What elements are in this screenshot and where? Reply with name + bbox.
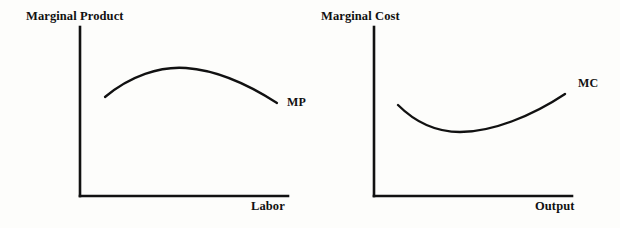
marginal-product-plot bbox=[0, 0, 310, 228]
y-axis-title: Marginal Cost bbox=[321, 10, 400, 23]
mp-curve-label: MP bbox=[287, 96, 306, 108]
y-axis-title: Marginal Product bbox=[26, 10, 124, 23]
marginal-product-panel: Marginal Product Labor MP bbox=[0, 0, 310, 228]
mc-curve bbox=[398, 94, 565, 132]
x-axis-title: Output bbox=[535, 200, 575, 213]
x-axis-title: Labor bbox=[251, 200, 285, 213]
marginal-cost-panel: Marginal Cost Output MC bbox=[310, 0, 620, 228]
marginal-cost-plot bbox=[310, 0, 620, 228]
mp-curve bbox=[105, 68, 277, 103]
mc-curve-label: MC bbox=[578, 77, 598, 89]
economics-figure: Marginal Product Labor MP Marginal Cost … bbox=[0, 0, 620, 228]
